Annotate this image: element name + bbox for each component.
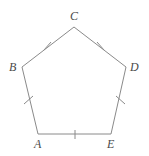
tick-mark-side-de [116, 96, 125, 104]
pentagon-diagram-svg [0, 0, 149, 156]
vertex-label-d: D [130, 61, 139, 73]
vertex-label-b: B [9, 61, 16, 73]
vertex-label-c: C [70, 10, 78, 22]
tick-mark-side-ab [24, 96, 33, 104]
vertex-label-e: E [107, 138, 114, 150]
pentagon-figure: A B C D E [0, 0, 149, 156]
pentagon-outline [22, 27, 126, 134]
vertex-label-a: A [34, 138, 41, 150]
tick-mark-group [24, 42, 125, 139]
